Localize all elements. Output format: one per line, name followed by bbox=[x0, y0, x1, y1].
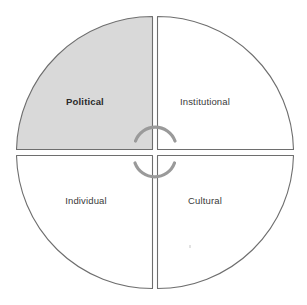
quadrant-label-institutional: Institutional bbox=[180, 96, 230, 107]
quadrant-wedge-institutional[interactable] bbox=[158, 16, 294, 149]
quadrant-circle-graphic bbox=[0, 0, 307, 305]
scan-artifact-speck bbox=[189, 245, 191, 248]
quadrant-wedge-individual[interactable] bbox=[17, 156, 153, 289]
quadrant-wedge-cultural[interactable] bbox=[158, 156, 294, 289]
quadrant-wedge-political[interactable] bbox=[17, 16, 153, 149]
quadrant-label-political: Political bbox=[66, 96, 104, 107]
quadrant-label-cultural: Cultural bbox=[188, 195, 222, 206]
quadrant-diagram: Political Institutional Individual Cultu… bbox=[0, 0, 307, 305]
quadrant-label-individual: Individual bbox=[65, 195, 107, 206]
